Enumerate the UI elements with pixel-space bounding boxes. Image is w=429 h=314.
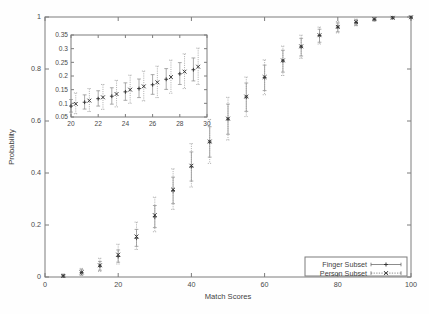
- legend-label-person-subset: Person Subset: [320, 269, 367, 278]
- y-tick-label: 0.4: [31, 168, 41, 177]
- x-tick-label: 30: [203, 120, 211, 127]
- x-tick-label: 100: [405, 280, 417, 289]
- x-tick-label: 40: [187, 280, 195, 289]
- x-tick-label: 60: [261, 280, 269, 289]
- x-tick-label: 24: [122, 120, 130, 127]
- y-tick-label: 0.05: [55, 113, 68, 120]
- x-tick-label: 26: [149, 120, 157, 127]
- x-tick-label: 22: [95, 120, 103, 127]
- chart-canvas: 02040608010000.20.40.60.81Match ScoresPr…: [0, 0, 429, 314]
- y-tick-label: 0.15: [55, 86, 68, 93]
- y-tick-label: 0.6: [31, 116, 41, 125]
- y-tick-label: 0.2: [31, 220, 41, 229]
- x-tick-label: 20: [114, 280, 122, 289]
- y-tick-label: 1: [37, 12, 41, 21]
- x-tick-label: 0: [43, 280, 47, 289]
- x-tick-label: 80: [334, 280, 342, 289]
- x-tick-label: 20: [67, 120, 75, 127]
- y-axis-label: Probability: [7, 129, 16, 165]
- x-tick-label: 28: [176, 120, 184, 127]
- y-tick-label: 0: [37, 272, 41, 281]
- main-plot: 02040608010000.20.40.60.81Match ScoresPr…: [7, 12, 417, 301]
- y-tick-label: 0.25: [55, 59, 68, 66]
- y-tick-label: 0.3: [59, 45, 68, 52]
- y-tick-label: 0.2: [59, 72, 68, 79]
- inset-plot-frame: [71, 35, 207, 117]
- inset-plot: 2022242628300.050.10.150.20.250.30.35: [55, 31, 211, 126]
- y-tick-label: 0.8: [31, 64, 41, 73]
- x-axis-label: Match Scores: [205, 292, 252, 301]
- y-tick-label: 0.35: [55, 31, 68, 38]
- figure-container: 02040608010000.20.40.60.81Match ScoresPr…: [0, 0, 429, 314]
- y-tick-label: 0.1: [59, 100, 68, 107]
